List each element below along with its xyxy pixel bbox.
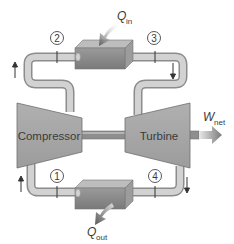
state-1-label: 1 [54,171,60,182]
flow-arrow-up-icon [13,62,18,78]
w-net-subscript: net [214,118,226,127]
heat-exchanger-heater [75,40,133,69]
compressor: Compressor [17,103,82,168]
q-in-label: Q [117,9,126,23]
flow-arrow-up-icon [19,176,24,192]
work-out-arrow-icon [199,126,222,144]
flow-arrow-down-icon [171,63,176,79]
heat-exchanger-cooler [75,180,133,209]
q-out-label: Q [87,225,96,239]
state-2-label: 2 [54,33,60,44]
state-3: 3 [148,32,161,45]
turbine-label: Turbine [140,130,179,142]
state-3-label: 3 [151,33,157,44]
state-1: 1 [51,170,64,183]
q-out-subscript: out [96,233,108,242]
brayton-cycle-diagram: Compressor Turbine 2 3 1 4 [0,0,234,244]
state-2: 2 [51,32,64,45]
q-in-subscript: in [126,17,132,26]
state-4: 4 [149,170,162,183]
state-4-label: 4 [152,171,158,182]
flow-arrow-down-icon [185,177,190,193]
compressor-label: Compressor [18,130,81,142]
